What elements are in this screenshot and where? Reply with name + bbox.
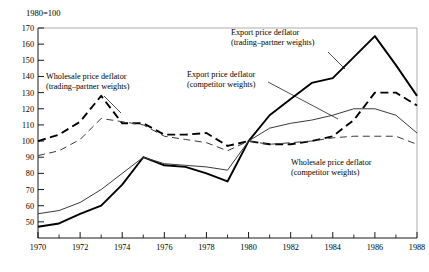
x-axis-tick-label: 1978 [198,243,214,252]
annotation-leader-line [328,52,345,69]
y-axis-tick-label: 90 [26,153,34,162]
annotation-line-1: Export price deflator [231,28,299,37]
annotation-leader-line [268,82,338,119]
annotation-line-2: (competitor weights) [291,168,371,178]
chart-container: 1980=100 5060708090100110120130140150160… [0,0,429,272]
x-axis-tick-label: 1988 [409,243,425,252]
x-axis-tick-label: 1982 [282,243,298,252]
series-line [38,93,417,146]
chart-series [38,36,417,227]
x-axis-tick-label: 1984 [325,243,341,252]
annotation-line-2: (trading–partner weights) [46,82,129,92]
y-axis-tick-label: 110 [22,121,34,130]
annotation-wholesale-trading-partner: Wholesale price deflator (trading–partne… [46,72,129,92]
line-chart: 5060708090100110120130140150160170197019… [0,0,429,272]
annotation-line-1: Export price deflator [187,70,255,79]
annotation-line-2: (competitor weights) [187,80,255,90]
series-line [38,118,417,155]
y-axis-tick-label: 160 [22,40,34,49]
series-line [38,36,417,227]
annotation-line-1: Wholesale price deflator [291,158,371,167]
annotation-line-1: Wholesale price deflator [46,72,126,81]
y-axis-tick-label: 80 [26,169,34,178]
y-axis-tick-label: 50 [26,218,34,227]
y-axis-tick-label: 150 [22,56,34,65]
x-axis-tick-label: 1976 [156,243,172,252]
y-axis-tick-label: 70 [26,186,34,195]
y-axis-tick-label: 60 [26,202,34,211]
annotation-line-2: (trading–partner weights) [231,38,314,48]
y-axis-tick-label: 120 [22,105,34,114]
annotation-export-trading-partner: Export price deflator (trading–partner w… [231,28,314,48]
x-axis-tick-label: 1974 [114,243,130,252]
annotation-wholesale-competitor: Wholesale price deflator (competitor wei… [291,158,371,178]
x-axis-tick-label: 1980 [240,243,256,252]
y-axis-tick-label: 130 [22,89,34,98]
annotation-leader-line [104,96,121,113]
x-axis-tick-label: 1972 [72,243,88,252]
x-axis-tick-label: 1970 [30,243,46,252]
annotation-export-competitor: Export price deflator (competitor weight… [187,70,255,90]
y-axis-tick-label: 100 [22,137,34,146]
y-axis-tick-label: 140 [22,72,34,81]
y-axis-tick-label: 170 [22,24,34,33]
x-axis-tick-label: 1986 [367,243,383,252]
